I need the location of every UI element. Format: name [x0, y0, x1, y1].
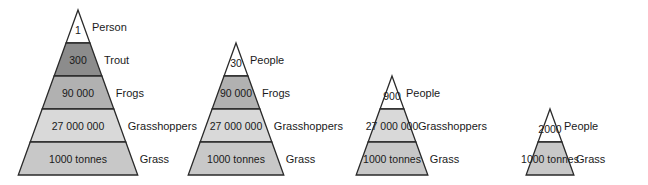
- level-value: 90 000: [220, 87, 252, 99]
- organism-label: Grasshoppers: [128, 120, 198, 132]
- level-value: 1000 tonnes: [521, 153, 579, 165]
- pyramid-two-level: 2000People1000 tonnesGrass: [521, 109, 606, 175]
- level-value: 1000 tonnes: [207, 153, 265, 165]
- level-value: 300: [69, 54, 87, 66]
- pyramid-four-level: 30People90 000Frogs27 000 000Grasshopper…: [188, 43, 343, 175]
- organism-label: People: [250, 54, 284, 66]
- organism-label: People: [564, 120, 598, 132]
- level-value: 30: [230, 57, 242, 69]
- organism-label: Trout: [104, 54, 129, 66]
- food-pyramids-diagram: 1Person300Trout90 000Frogs27 000 000Gras…: [0, 0, 648, 185]
- level-value: 90 000: [62, 87, 94, 99]
- organism-label: Grasshoppers: [418, 120, 488, 132]
- organism-label: Grasshoppers: [274, 120, 344, 132]
- organism-label: People: [406, 87, 440, 99]
- organism-label: Frogs: [116, 87, 145, 99]
- pyramid-five-level: 1Person300Trout90 000Frogs27 000 000Gras…: [18, 10, 197, 175]
- level-value: 27 000 000: [366, 120, 419, 132]
- organism-label: Grass: [576, 153, 606, 165]
- level-value: 1: [75, 24, 81, 36]
- pyramid-three-level: 900People27 000 000Grasshoppers1000 tonn…: [356, 76, 487, 175]
- level-value: 27 000 000: [52, 120, 105, 132]
- level-value: 2000: [538, 123, 562, 135]
- organism-label: Person: [92, 21, 127, 33]
- level-value: 1000 tonnes: [49, 153, 107, 165]
- level-value: 27 000 000: [210, 120, 263, 132]
- organism-label: Grass: [140, 153, 170, 165]
- level-value: 1000 tonnes: [363, 153, 421, 165]
- organism-label: Grass: [430, 153, 460, 165]
- level-value: 900: [383, 90, 401, 102]
- organism-label: Grass: [286, 153, 316, 165]
- organism-label: Frogs: [262, 87, 291, 99]
